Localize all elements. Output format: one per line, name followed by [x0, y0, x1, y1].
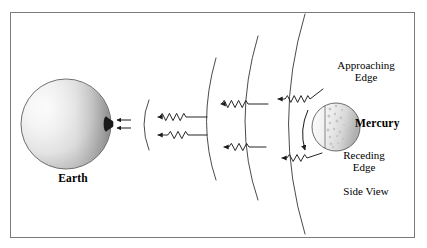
figure-root: Earth Mercury Approaching Edge Receding …: [0, 0, 427, 248]
wave-arrows-middle: [221, 100, 268, 150]
mercury-sphere: [312, 103, 360, 151]
earth-shading-overlay: [22, 80, 111, 169]
receding-edge-label: Receding Edge: [324, 150, 404, 174]
mercury-label: Mercury: [355, 117, 421, 129]
wave-arrows-inner: [158, 113, 207, 138]
wave-arrow-6: [282, 153, 322, 161]
wavefront-arc-1: [144, 100, 149, 150]
wavefront-arc-4: [289, 14, 306, 234]
mercury-rotation-arrow: [303, 110, 308, 150]
wave-arrow-1: [158, 113, 207, 120]
earth-label: Earth: [34, 172, 112, 184]
side-view-label: Side View: [326, 186, 406, 198]
receiver-arrows: [117, 120, 131, 128]
radar-dish-icon: [104, 117, 113, 132]
approaching-edge-label: Approaching Edge: [322, 60, 410, 84]
wavefront-arc-2: [207, 58, 217, 180]
wave-arrow-3: [221, 100, 268, 107]
wave-arrow-4: [224, 143, 266, 150]
wave-arrow-2: [158, 131, 207, 138]
wavefront-arcs: [144, 14, 305, 234]
wavefront-arc-3: [245, 36, 258, 200]
earth-body: [21, 79, 111, 169]
mercury-body: [312, 101, 360, 153]
wave-arrow-5: [278, 89, 323, 102]
